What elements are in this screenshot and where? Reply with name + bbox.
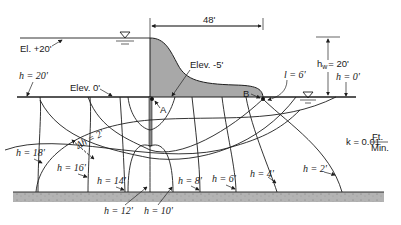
- equipotential-label-10: h = 10': [144, 205, 174, 216]
- equipotential-label-14: h = 14': [97, 175, 127, 186]
- point-a-marker: [150, 97, 154, 101]
- flow-line-2: [88, 97, 263, 152]
- headwater-elevation-label: El. +20': [20, 43, 52, 54]
- upstream-head-label: h = 20': [19, 70, 49, 81]
- equipotential-label-4: h = 4': [250, 168, 275, 179]
- equipotential-label-16: h = 16': [57, 162, 87, 173]
- equipotential-label-8: h = 8': [178, 175, 203, 186]
- dam-width-label: 48': [203, 14, 216, 25]
- head-difference-label: hw= 20': [317, 58, 349, 70]
- equipotential-label-6: h = 6': [212, 173, 237, 184]
- point-a-label: A: [160, 104, 167, 115]
- impervious-layer-right: [184, 192, 384, 202]
- ground-elevation-label: Elev. 0': [70, 82, 100, 93]
- equipotential-label-12: h = 12': [104, 205, 134, 216]
- flow-net-diagram: El. +20' h = 20' Elev. 0' Elev. -5' 48' …: [0, 0, 401, 225]
- permeability-numerator: Ft.: [372, 131, 383, 142]
- exit-length-label: l = 6': [284, 69, 307, 80]
- point-b-label: B: [243, 88, 249, 99]
- flow-lines: [5, 97, 336, 192]
- equipotential-label-18: h = 18': [16, 147, 46, 158]
- equipotential-2: [264, 100, 342, 192]
- downstream-head-label: h = 0': [336, 71, 361, 82]
- dam-base-elevation-label: Elev. -5': [190, 59, 224, 70]
- sheet-pile: [149, 97, 152, 146]
- permeability-denominator: Min.: [371, 142, 389, 153]
- impervious-layer: [13, 192, 184, 202]
